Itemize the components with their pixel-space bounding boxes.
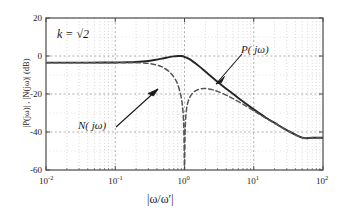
- svg-text:-60: -60: [30, 165, 42, 175]
- y-axis-label: |P(jω)| , |N(jω)| (dB): [21, 13, 31, 173]
- k-parameter-annotation: k = √2: [57, 27, 89, 42]
- svg-text:0: 0: [38, 51, 43, 61]
- figure-container: 10-210-1100101102 200-20-40-60 k = √2 P(…: [0, 0, 346, 215]
- svg-text:-40: -40: [30, 127, 42, 137]
- series-label-N: N( jω): [78, 119, 106, 131]
- x-axis-label: |ω/ω′|: [147, 192, 174, 207]
- svg-text:-20: -20: [30, 89, 42, 99]
- plot-background: [0, 0, 346, 215]
- bode-plot-svg: 10-210-1100101102 200-20-40-60: [0, 0, 346, 215]
- series-label-P: P( jω): [241, 43, 269, 55]
- svg-text:20: 20: [33, 13, 43, 23]
